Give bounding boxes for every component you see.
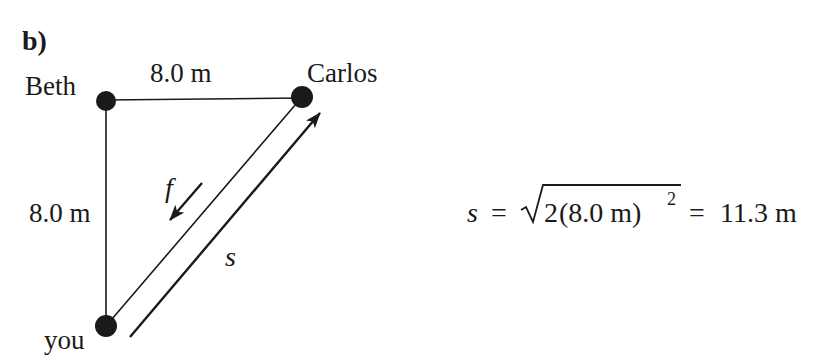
you-label: you — [44, 325, 85, 355]
left-length-label: 8.0 m — [29, 198, 91, 228]
carlos-label: Carlos — [307, 58, 378, 88]
diagram-canvas: b) Beth Carlos you 8.0 m 8.0 m f s s = 2 — [0, 0, 826, 364]
eq-lhs: s — [467, 197, 478, 228]
eq-exponent: 2 — [667, 189, 676, 209]
distance-equation: s = 2 (8.0 m) 2 = 11.3 m — [467, 185, 797, 228]
eq-equals-1: = — [491, 197, 507, 228]
s-vector-label: s — [225, 241, 236, 272]
beth-label: Beth — [25, 71, 76, 101]
eq-radicand-coeff: 2 — [544, 197, 558, 228]
you-node — [95, 315, 117, 337]
edge-beth-carlos — [106, 98, 302, 100]
eq-equals-2: = — [689, 197, 705, 228]
beth-node — [96, 91, 116, 111]
eq-radicand-inner: (8.0 m) — [559, 197, 641, 228]
top-length-label: 8.0 m — [150, 58, 212, 88]
carlos-node — [291, 86, 313, 108]
s-vector-arrow — [130, 113, 320, 337]
edge-you-carlos — [106, 97, 302, 326]
f-vector-label: f — [165, 172, 176, 203]
eq-result: 11.3 m — [720, 197, 797, 228]
f-vector-arrow — [170, 183, 202, 220]
part-label: b) — [22, 25, 47, 56]
